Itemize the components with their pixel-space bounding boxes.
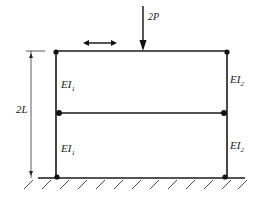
label-right-lower: EI2	[229, 139, 244, 154]
load-label: 2P	[148, 11, 159, 22]
label-left-upper: EI1	[60, 78, 75, 93]
dimension-label: 2L	[16, 103, 28, 115]
double-arrow-icon	[83, 40, 117, 46]
joint-base-right	[222, 174, 227, 179]
frame-diagram: 2L 2P EI1 EI1 EI2 EI2	[0, 0, 256, 203]
label-right-upper: EI2	[229, 73, 244, 88]
joint-top-left	[53, 49, 58, 54]
joint-top-right	[224, 49, 229, 54]
joint-mid-right	[221, 110, 227, 116]
joint-base-left	[54, 174, 59, 179]
dimension-2L	[26, 51, 45, 178]
load-arrow-icon	[140, 6, 147, 51]
label-left-lower: EI1	[60, 142, 75, 157]
joint-mid-left	[56, 110, 62, 116]
ground-hatching	[24, 180, 247, 189]
